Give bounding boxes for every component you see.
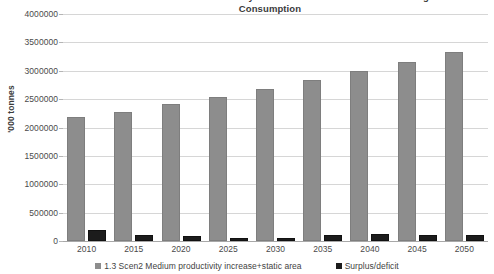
legend-swatch-icon	[95, 263, 101, 269]
bar-groups	[63, 14, 488, 241]
bar-surplus-deficit	[183, 236, 201, 241]
legend-item-label: 1.3 Scen2 Medium productivity increase+s…	[104, 261, 301, 271]
bar-surplus-deficit	[135, 235, 153, 241]
y-axis-tick-label: 4000000	[0, 9, 58, 19]
x-axis-tick-labels: 201020152020202520302035204020452050	[63, 244, 488, 254]
plot-area	[63, 14, 488, 241]
bar-group	[346, 14, 393, 241]
x-axis-tick-label: 2010	[63, 244, 110, 254]
bar-surplus-deficit	[230, 238, 248, 241]
bar-group	[299, 14, 346, 241]
y-axis-tick-label: 1500000	[0, 151, 58, 161]
y-axis-tick-labels: 4000000350000030000002500000200000015000…	[0, 14, 58, 241]
x-axis-tick-label: 2020	[157, 244, 204, 254]
y-axis-tick-label: 2500000	[0, 94, 58, 104]
x-axis-tick-label: 2030	[252, 244, 299, 254]
axis-baseline	[63, 241, 488, 242]
x-axis-tick-label: 2015	[110, 244, 157, 254]
bar-surplus-deficit	[88, 230, 106, 241]
bar-group	[110, 14, 157, 241]
bar-surplus-deficit	[324, 235, 342, 241]
bar-production	[256, 89, 274, 241]
chart-title-line-2: Consumption	[60, 3, 480, 15]
bar-production	[445, 52, 463, 241]
chart-legend: 1.3 Scen2 Medium productivity increase+s…	[0, 261, 494, 271]
x-axis-tick-label: 2050	[441, 244, 488, 254]
bar-chart: 1.3 Scen2 Medium Productivity Increase +…	[0, 0, 494, 274]
x-axis-tick-label: 2040	[346, 244, 393, 254]
y-axis-tick-label: 500000	[0, 208, 58, 218]
legend-swatch-icon	[336, 263, 342, 269]
chart-title: 1.3 Scen2 Medium Productivity Increase +…	[60, 0, 480, 14]
bar-group	[441, 14, 488, 241]
x-axis-tick-label: 2035	[299, 244, 346, 254]
bar-production	[303, 80, 321, 241]
bar-group	[157, 14, 204, 241]
y-axis-tick-label: 0	[0, 236, 58, 246]
bar-surplus-deficit	[419, 235, 437, 241]
bar-group	[205, 14, 252, 241]
x-axis-tick-label: 2025	[205, 244, 252, 254]
bar-production	[398, 62, 416, 241]
bar-group	[252, 14, 299, 241]
bar-production	[350, 71, 368, 241]
legend-item-label: Surplus/deficit	[345, 261, 399, 271]
bar-group	[63, 14, 110, 241]
y-axis-tick-label: 2000000	[0, 123, 58, 133]
legend-item[interactable]: Surplus/deficit	[336, 261, 399, 271]
legend-item[interactable]: 1.3 Scen2 Medium productivity increase+s…	[95, 261, 301, 271]
bar-production	[162, 104, 180, 241]
bar-surplus-deficit	[277, 238, 295, 241]
bar-production	[114, 112, 132, 241]
x-axis-tick-label: 2045	[394, 244, 441, 254]
bar-group	[394, 14, 441, 241]
bar-production	[209, 97, 227, 241]
y-axis-tick-label: 3500000	[0, 37, 58, 47]
y-axis-tick-label: 1000000	[0, 179, 58, 189]
bar-production	[67, 117, 85, 241]
bar-surplus-deficit	[371, 234, 389, 241]
y-axis-tick-label: 3000000	[0, 66, 58, 76]
bar-surplus-deficit	[466, 235, 484, 241]
